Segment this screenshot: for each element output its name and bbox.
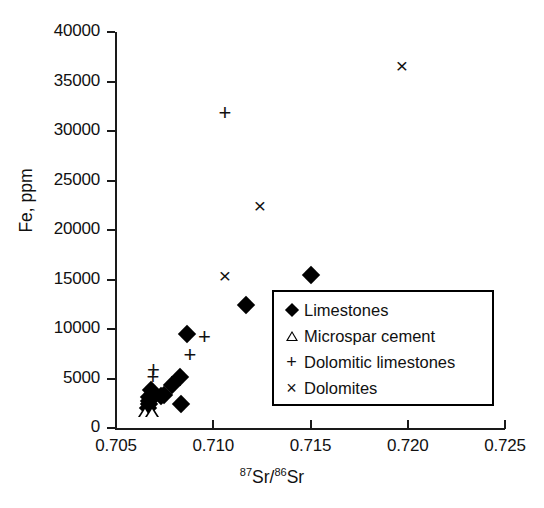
y-tick-label: 15000 <box>0 269 100 289</box>
cross-icon: × <box>282 378 301 399</box>
x-tick-mark <box>504 420 506 429</box>
chart-legend: LimestonesMicrospar cement+Dolomitic lim… <box>272 290 494 406</box>
data-point-limestone <box>237 296 255 314</box>
legend-item-label: Dolomites <box>301 379 377 398</box>
x-tick-mark <box>407 420 409 429</box>
data-point-limestone <box>301 265 319 283</box>
y-tick-mark <box>107 279 115 281</box>
scatter-chart: 0500010000150002000025000300003500040000… <box>0 0 544 508</box>
y-tick-mark <box>107 130 115 132</box>
y-axis-title: Fe, ppm <box>16 151 37 251</box>
y-tick-mark <box>107 427 115 429</box>
y-tick-label: 5000 <box>0 368 100 388</box>
y-axis-line <box>115 32 117 429</box>
x-axis-title-sup-86: 86 <box>274 466 286 478</box>
x-tick-label: 0.725 <box>455 436 544 456</box>
legend-item-label: Microspar cement <box>301 327 435 346</box>
y-tick-mark <box>107 229 115 231</box>
data-point-dolomitic-limestone: + <box>198 326 211 348</box>
legend-item: Microspar cement <box>282 323 492 349</box>
y-tick-mark <box>107 31 115 33</box>
plus-icon: + <box>282 352 301 373</box>
data-point-dolomitic-limestone: + <box>147 359 160 381</box>
legend-item: +Dolomitic limestones <box>282 349 492 375</box>
x-axis-title-sr-slash: Sr/ <box>252 467 274 487</box>
x-tick-mark <box>115 420 117 429</box>
data-point-dolomite: × <box>254 195 266 216</box>
x-tick-label: 0.715 <box>261 436 361 456</box>
data-point-dolomitic-limestone: + <box>183 344 196 366</box>
triangle-glyph <box>286 331 298 341</box>
x-tick-mark <box>212 420 214 429</box>
legend-item: Limestones <box>282 297 492 323</box>
data-point-dolomite: × <box>396 55 408 76</box>
legend-item-label: Limestones <box>301 301 388 320</box>
y-tick-mark <box>107 328 115 330</box>
data-point-dolomitic-limestone: + <box>218 102 231 124</box>
x-tick-label: 0.720 <box>358 436 458 456</box>
x-axis-title: 87Sr/86Sr <box>0 466 544 488</box>
diamond-glyph <box>284 303 298 317</box>
x-axis-title-sr: Sr <box>287 467 305 487</box>
y-tick-mark <box>107 81 115 83</box>
x-tick-label: 0.705 <box>66 436 166 456</box>
y-tick-label: 0 <box>0 417 100 437</box>
data-point-limestone <box>172 395 190 413</box>
y-tick-label: 35000 <box>0 71 100 91</box>
filled-diamond-icon <box>282 305 301 315</box>
open-triangle-icon <box>282 331 301 341</box>
x-tick-mark <box>310 420 312 429</box>
y-tick-label: 10000 <box>0 318 100 338</box>
data-point-dolomite: × <box>219 264 231 285</box>
legend-item: ×Dolomites <box>282 375 492 401</box>
legend-item-label: Dolomitic limestones <box>301 353 455 372</box>
y-tick-label: 30000 <box>0 120 100 140</box>
data-point-microspar-cement <box>145 416 159 427</box>
x-tick-label: 0.710 <box>163 436 263 456</box>
x-axis-title-sup-87: 87 <box>240 466 252 478</box>
y-tick-mark <box>107 180 115 182</box>
y-tick-label: 40000 <box>0 21 100 41</box>
y-tick-mark <box>107 378 115 380</box>
